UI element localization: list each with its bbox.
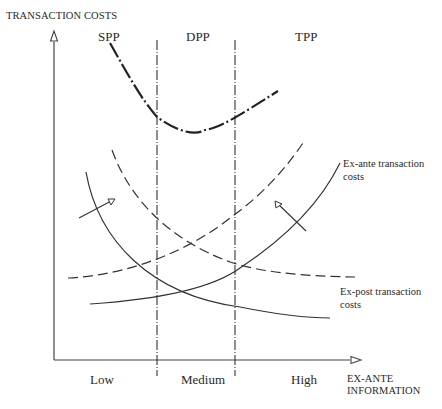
shift-arrow-left [79,200,113,218]
y-axis-label: TRANSACTION COSTS [6,10,117,21]
ex-ante-label: Ex-ante transaction costs [343,157,424,183]
ex-post-curve-solid [86,172,330,318]
ex-post-label-line2: costs [340,298,421,311]
ex-post-curve-dashed [112,150,355,277]
ex-post-label: Ex-post transaction costs [340,285,421,311]
ex-post-label-line1: Ex-post transaction [340,285,421,298]
x-axis-label-line1: EX-ANTE [347,373,420,385]
total-cost-curve [110,43,278,133]
region-label-spp: SPP [98,29,120,45]
ex-ante-curve-solid [90,163,340,304]
shift-arrow-left-head-icon [108,199,115,205]
transaction-cost-diagram [0,0,442,409]
x-axis-label-line2: INFORMATION [347,385,420,397]
ex-ante-curve-dashed [68,140,305,278]
x-axis-arrow-icon [351,357,361,364]
x-tick-high: High [291,372,317,388]
x-axis-label: EX-ANTE INFORMATION [347,373,420,397]
ex-ante-label-line2: costs [343,170,424,183]
ex-ante-label-line1: Ex-ante transaction [343,157,424,170]
y-axis-arrow-icon [51,31,58,41]
x-tick-low: Low [90,372,114,388]
region-label-tpp: TPP [295,29,317,45]
region-label-dpp: DPP [186,29,210,45]
x-tick-medium: Medium [181,372,225,388]
